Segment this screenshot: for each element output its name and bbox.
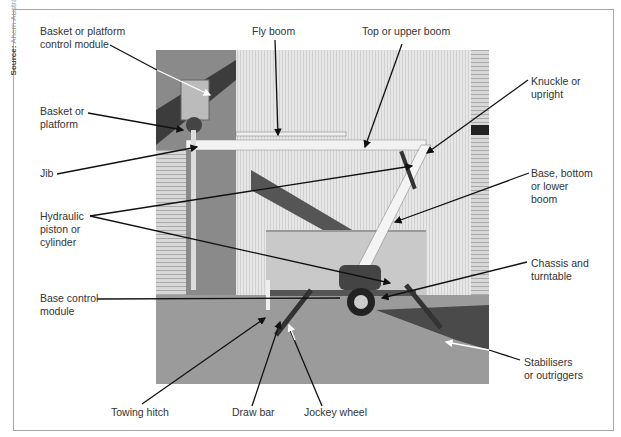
label-base-lower-boom: Base, bottom or lower boom — [531, 167, 593, 206]
boom-lift-photo — [156, 50, 489, 384]
label-chassis-turntable: Chassis and turntable — [531, 257, 589, 283]
label-draw-bar: Draw bar — [232, 406, 275, 419]
label-basket-control-module: Basket or platform control module — [40, 25, 125, 51]
label-basket-platform: Basket or platform — [40, 105, 84, 131]
label-hydraulic-piston: Hydraulic piston or cylinder — [40, 210, 84, 249]
label-jockey-wheel: Jockey wheel — [304, 406, 367, 419]
source-credit: Source: Ahern Australia — [9, 0, 18, 78]
label-stabilisers: Stabilisers or outriggers — [524, 356, 583, 382]
label-towing-hitch: Towing hitch — [111, 406, 169, 419]
photo-illustration — [156, 50, 489, 384]
label-knuckle-upright: Knuckle or upright — [531, 75, 581, 101]
label-jib: Jib — [40, 167, 53, 180]
label-base-control-module: Base control module — [40, 292, 98, 318]
label-top-upper-boom: Top or upper boom — [362, 25, 450, 38]
label-fly-boom: Fly boom — [252, 25, 295, 38]
